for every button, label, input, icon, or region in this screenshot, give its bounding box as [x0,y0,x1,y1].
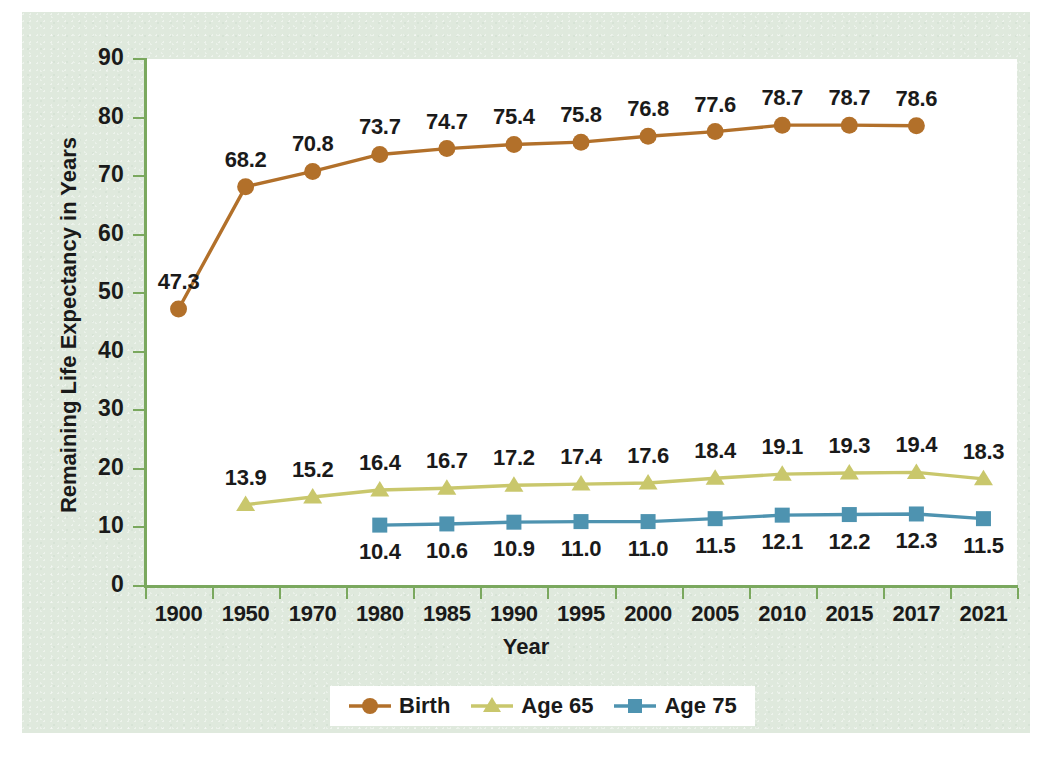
legend-label: Age 75 [664,693,736,719]
chart-legend: BirthAge 65Age 75 [330,686,755,726]
data-point-label: 11.5 [943,533,1023,559]
x-axis-tick [413,588,415,599]
legend-marker-circle-icon [348,695,392,717]
y-axis-tick [133,175,144,177]
x-axis-tick-label: 1995 [547,601,614,627]
legend-marker-triangle-icon [470,695,514,717]
data-point-label: 78.6 [876,86,956,112]
y-axis-tick [133,117,144,119]
legend-item-age-75[interactable]: Age 75 [613,693,736,719]
legend-label: Age 65 [521,693,593,719]
x-axis-tick [749,588,751,599]
x-axis-tick-label: 1990 [480,601,547,627]
y-axis-tick [133,585,144,587]
legend-label: Birth [399,693,450,719]
legend-item-age-65[interactable]: Age 65 [470,693,593,719]
x-axis-title: Year [22,634,1030,660]
y-axis-title: Remaining Life Expectancy in Years [56,65,82,585]
x-axis-tick [145,588,147,599]
x-axis-tick [883,588,885,599]
x-axis-tick [279,588,281,599]
data-point-label: 47.3 [139,269,219,295]
x-axis-tick [1017,588,1019,599]
x-axis-tick-label: 2000 [615,601,682,627]
x-axis-tick [615,588,617,599]
y-axis-tick [133,409,144,411]
x-axis-tick [480,588,482,599]
legend-marker-square-icon [613,695,657,717]
x-axis-tick [212,588,214,599]
y-axis-tick [133,58,144,60]
x-axis-tick-label: 2010 [749,601,816,627]
x-axis-tick-label: 1950 [212,601,279,627]
data-point-label: 18.3 [943,439,1023,465]
x-axis-tick [950,588,952,599]
x-axis-tick-label: 2017 [883,601,950,627]
y-axis-tick [133,351,144,353]
legend-item-birth[interactable]: Birth [348,693,450,719]
x-axis-tick-label: 1980 [346,601,413,627]
x-axis-tick-label: 1900 [145,601,212,627]
x-axis-tick [346,588,348,599]
x-axis-tick-label: 1970 [279,601,346,627]
x-axis-tick-label: 2015 [816,601,883,627]
x-axis-tick [682,588,684,599]
y-axis-line [144,58,147,588]
x-axis-tick-label: 2021 [950,601,1017,627]
y-axis-tick [133,234,144,236]
chart-figure-panel: 0102030405060708090 19001950197019801985… [22,12,1030,733]
x-axis-tick [816,588,818,599]
x-axis-line [144,585,1018,588]
x-axis-tick-label: 2005 [682,601,749,627]
x-axis-tick-label: 1985 [413,601,480,627]
y-axis-tick [133,526,144,528]
x-axis-tick [547,588,549,599]
y-axis-tick [133,468,144,470]
